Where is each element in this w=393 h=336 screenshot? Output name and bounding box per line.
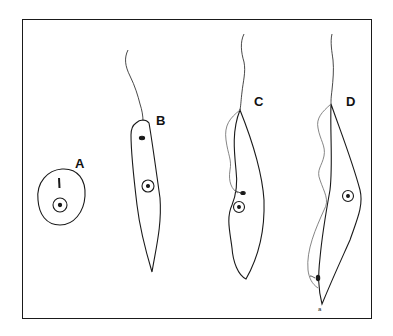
panel-label-b: B xyxy=(156,114,165,127)
panel-label-d: D xyxy=(346,95,355,108)
figure-drawing xyxy=(0,0,393,336)
panel-d-small-mark: a xyxy=(318,306,321,312)
panel-label-c: C xyxy=(254,95,263,108)
cell-a xyxy=(38,169,85,225)
cell-c xyxy=(226,34,264,279)
cell-b xyxy=(126,50,161,272)
panel-label-a: A xyxy=(75,157,84,170)
cell-d xyxy=(308,34,361,304)
